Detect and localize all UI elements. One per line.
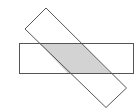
overlap-diagram <box>0 0 140 110</box>
